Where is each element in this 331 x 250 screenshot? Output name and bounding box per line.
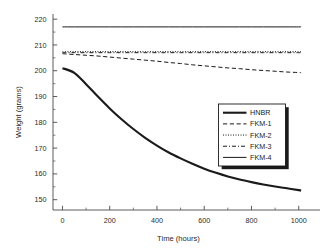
x-tick-label: 1000 (291, 216, 307, 225)
chart-figure: 1501601701801902002102200200400600800100… (0, 0, 331, 250)
y-tick-label: 190 (35, 92, 47, 101)
x-tick-label: 600 (198, 216, 210, 225)
y-axis-title: Weight (grams) (14, 86, 23, 138)
legend-label: FKM-4 (250, 153, 272, 162)
x-tick-label: 800 (245, 216, 257, 225)
legend-label: FKM-3 (250, 142, 272, 151)
y-tick-label: 170 (35, 144, 47, 153)
legend-label: HNBR (250, 108, 270, 117)
legend-label: FKM-2 (250, 131, 272, 140)
y-tick-label: 150 (35, 195, 47, 204)
y-tick-label: 200 (35, 66, 47, 75)
legend-label: FKM-1 (250, 119, 272, 128)
line-chart: 1501601701801902002102200200400600800100… (0, 0, 331, 250)
y-tick-label: 180 (35, 118, 47, 127)
y-tick-label: 210 (35, 41, 47, 50)
y-tick-label: 160 (35, 169, 47, 178)
x-axis-title: Time (hours) (157, 234, 200, 243)
chart-legend[interactable]: HNBRFKM-1FKM-2FKM-3FKM-4 (219, 104, 289, 169)
x-tick-label: 0 (60, 216, 64, 225)
x-tick-label: 200 (104, 216, 116, 225)
x-tick-label: 400 (151, 216, 163, 225)
y-tick-label: 220 (35, 15, 47, 24)
